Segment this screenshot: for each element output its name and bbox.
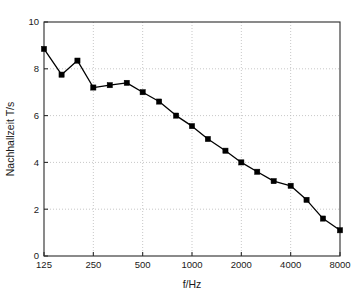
x-tick-label: 500 xyxy=(135,259,151,270)
reverberation-time-chart: 12525050010002000400080000246810 f/Hz Na… xyxy=(0,0,364,294)
chart-figure: 12525050010002000400080000246810 f/Hz Na… xyxy=(0,0,364,294)
data-point-marker xyxy=(205,136,210,141)
data-point-marker xyxy=(223,148,228,153)
data-point-marker xyxy=(189,124,194,129)
data-point-marker xyxy=(174,113,179,118)
data-point-marker xyxy=(320,216,325,221)
data-point-marker xyxy=(41,46,46,51)
y-tick-label: 2 xyxy=(34,204,39,215)
data-point-marker xyxy=(140,90,145,95)
x-tick-label: 1000 xyxy=(181,259,202,270)
y-tick-label: 4 xyxy=(34,157,39,168)
y-tick-label: 6 xyxy=(34,110,39,121)
data-point-marker xyxy=(157,99,162,104)
x-tick-label: 4000 xyxy=(280,259,301,270)
data-point-marker xyxy=(124,80,129,85)
y-tick-label: 0 xyxy=(34,250,39,261)
axis-tick-labels: 12525050010002000400080000246810 xyxy=(28,16,350,270)
grid-lines xyxy=(44,22,340,256)
data-point-marker xyxy=(91,85,96,90)
data-point-marker xyxy=(337,228,342,233)
data-point-marker xyxy=(271,179,276,184)
y-tick-label: 10 xyxy=(28,16,39,27)
data-point-marker xyxy=(59,72,64,77)
data-point-marker xyxy=(255,169,260,174)
y-axis-title: Nachhallzeit T/s xyxy=(4,102,16,177)
data-point-marker xyxy=(239,160,244,165)
data-point-marker xyxy=(107,83,112,88)
x-tick-label: 250 xyxy=(85,259,101,270)
data-point-marker xyxy=(288,183,293,188)
data-point-marker xyxy=(304,197,309,202)
x-tick-label: 8000 xyxy=(329,259,350,270)
data-point-marker xyxy=(75,58,80,63)
x-axis-title: f/Hz xyxy=(183,278,202,290)
x-tick-label: 2000 xyxy=(231,259,252,270)
y-tick-label: 8 xyxy=(34,63,39,74)
